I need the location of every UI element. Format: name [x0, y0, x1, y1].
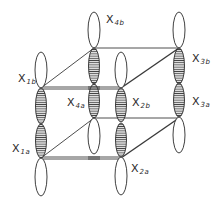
orbital-column-x2 [115, 52, 127, 195]
label-x4a: X4a [67, 97, 85, 110]
label-sub: 1b [27, 78, 37, 86]
lobe-hatched-b [89, 48, 100, 84]
lobe-hatched-b [174, 48, 185, 84]
lobe-white-top [35, 52, 47, 88]
edge-diag-2-3-bottom [121, 118, 179, 158]
orbital-column-x1 [35, 52, 47, 196]
lobe-white-bottom [173, 117, 185, 153]
label-x1b: X1b [18, 73, 36, 86]
lobe-hatched-b [116, 88, 127, 122]
lobe-hatched-a [116, 123, 127, 157]
lobe-hatched-b [36, 88, 47, 124]
label-x3a: X3a [192, 96, 210, 109]
label-main: X [132, 96, 140, 109]
label-main: X [12, 142, 20, 155]
label-main: X [192, 95, 200, 108]
label-main: X [131, 162, 139, 175]
label-sub: 1a [21, 148, 31, 156]
label-sub: 2a [140, 168, 150, 176]
label-main: X [67, 96, 75, 109]
label-main: X [192, 52, 200, 65]
lobe-hatched-a [174, 83, 185, 117]
lobe-white-bottom [115, 157, 127, 195]
label-x2b: X2b [132, 97, 150, 110]
label-x2a: X2a [131, 163, 149, 176]
edge-diag-1-4-top [41, 48, 94, 88]
orbital-column-x4 [88, 12, 100, 154]
label-sub: 4a [76, 102, 86, 110]
label-sub: 2b [141, 102, 151, 110]
label-sub: 3b [201, 58, 211, 66]
lobe-hatched-a [36, 124, 47, 158]
label-x4b: X4b [106, 14, 124, 27]
label-sub: 4b [115, 19, 125, 27]
lobe-white-top [88, 12, 100, 48]
label-sub: 3a [201, 101, 211, 109]
lobe-white-top [115, 52, 127, 88]
lobe-white-bottom [35, 158, 47, 196]
lobe-white-bottom [88, 118, 100, 154]
edge-diag-1-4-bottom [41, 118, 94, 158]
orbital-cube-diagram [0, 0, 223, 204]
lobe-white-top [173, 12, 185, 48]
label-x3b: X3b [192, 53, 210, 66]
edge-diag-2-3-top [121, 48, 179, 88]
label-x1a: X1a [12, 143, 30, 156]
cube-edges [41, 48, 179, 159]
label-main: X [106, 13, 114, 26]
label-main: X [18, 72, 26, 85]
orbital-column-x3 [173, 12, 185, 153]
